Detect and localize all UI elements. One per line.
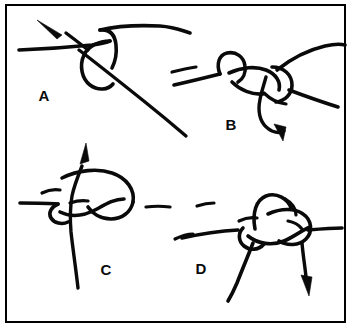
panel-c-drawing: C [20, 143, 193, 288]
panel-d-tail-dash-upper-left [197, 203, 214, 206]
panel-a-loop-right [100, 30, 116, 68]
panel-b-drawing: B [174, 44, 345, 141]
panel-a-tail-segment [172, 67, 196, 72]
panel-label-a: A [39, 87, 50, 104]
panel-d-standing-end-down-right [302, 243, 306, 277]
panel-b-standing-line-left [174, 74, 220, 85]
panel-d-arrowhead-icon [301, 275, 312, 296]
panel-b-loop-lower-cross [232, 82, 263, 94]
knot-diagram-figure: A B [0, 0, 355, 329]
panel-d-drawing: D [182, 195, 342, 301]
panel-d-standing-line-right [308, 228, 342, 230]
panel-b-standing-line-upper-right [277, 44, 345, 70]
panel-a-drawing: A [19, 20, 196, 136]
panel-c-arrowhead-icon [80, 143, 89, 164]
panel-a-working-end-lower [79, 50, 186, 136]
knot-illustration: A B [0, 0, 355, 329]
panel-b-second-turn [272, 67, 292, 102]
panel-b-standing-line-lower-right [289, 90, 338, 107]
panel-c-standing-line-left [20, 203, 58, 204]
panel-label-c: C [101, 261, 112, 278]
panel-c-under-dash-left [42, 190, 60, 193]
panel-c-working-end [70, 166, 82, 288]
panel-a-standing-line-right [100, 26, 190, 33]
panel-d-under-dash-right [288, 221, 302, 229]
panel-label-b: B [226, 116, 237, 133]
panel-c-standing-line-dash-right [146, 206, 170, 207]
panel-label-d: D [196, 260, 207, 277]
panel-d-working-end-down-left [228, 243, 253, 301]
panel-a-arrowhead-icon [37, 20, 62, 39]
